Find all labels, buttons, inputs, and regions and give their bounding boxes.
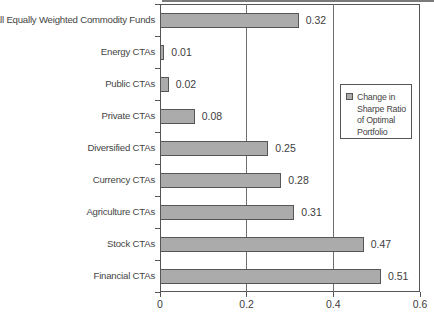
category-label: Stock CTAs <box>107 228 155 260</box>
y-axis-tick <box>155 36 160 37</box>
value-label: 0.25 <box>275 132 295 164</box>
scan-artifact-line <box>162 0 434 2</box>
legend-swatch-icon <box>346 93 353 100</box>
category-label: Financial CTAs <box>93 260 155 292</box>
bar <box>160 77 169 92</box>
bar <box>160 141 268 156</box>
legend-label: Change in Sharpe Ratio of Optimal Portfo… <box>357 92 406 138</box>
x-axis-tick <box>333 292 334 297</box>
value-label: 0.01 <box>171 36 191 68</box>
value-label: 0.51 <box>388 260 408 292</box>
x-tick-label: 0.4 <box>326 298 341 310</box>
value-label: 0.28 <box>288 164 308 196</box>
x-tick-label: 0.2 <box>239 298 254 310</box>
y-axis-tick <box>155 164 160 165</box>
x-axis-tick <box>420 292 421 297</box>
y-axis-tick <box>155 100 160 101</box>
category-label: Energy CTAs <box>101 36 155 68</box>
y-axis-tick <box>155 228 160 229</box>
value-label: 0.31 <box>301 196 321 228</box>
legend: Change in Sharpe Ratio of Optimal Portfo… <box>340 84 412 139</box>
category-label: All Equally Weighted Commodity Funds <box>0 4 155 36</box>
y-axis-tick <box>155 4 160 5</box>
x-tick-label: 0.6 <box>413 298 428 310</box>
y-axis-tick <box>155 132 160 133</box>
bar <box>160 173 281 188</box>
y-axis-tick <box>155 260 160 261</box>
bar <box>160 45 164 60</box>
y-axis-tick <box>155 68 160 69</box>
value-label: 0.08 <box>202 100 222 132</box>
bar <box>160 109 195 124</box>
category-label: Currency CTAs <box>93 164 155 196</box>
value-label: 0.32 <box>306 4 326 36</box>
x-tick-label: 0 <box>157 298 163 310</box>
value-label: 0.47 <box>371 228 391 260</box>
category-label: Diversified CTAs <box>87 132 155 164</box>
bar <box>160 269 381 284</box>
bar-chart-figure: Change in Sharpe Ratio of Optimal Portfo… <box>0 0 434 322</box>
bar <box>160 13 299 28</box>
bar <box>160 237 364 252</box>
bar <box>160 205 294 220</box>
x-axis-tick <box>246 292 247 297</box>
category-label: Public CTAs <box>105 68 155 100</box>
category-label: Agriculture CTAs <box>86 196 155 228</box>
value-label: 0.02 <box>176 68 196 100</box>
y-axis-tick <box>155 196 160 197</box>
category-label: Private CTAs <box>102 100 155 132</box>
x-axis-tick <box>160 292 161 297</box>
